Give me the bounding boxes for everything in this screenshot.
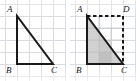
vertex-label-d: D [123,5,130,14]
vertex-label-a: A [77,5,83,14]
triangle-abc-outline [17,16,53,64]
geometry-diagram-canvas: A B C A B C [0,0,136,81]
vertex-label-a: A [7,5,13,14]
vertex-label-b: B [6,66,12,75]
vertex-label-c: C [121,66,127,75]
vertex-label-b: B [76,66,82,75]
panel-triangle-only: A B C [0,0,66,81]
panel-triangle-with-rectangle: A B C D [70,0,136,81]
triangle-interior-cell-highlight [99,52,111,64]
vertex-label-c: C [51,66,57,75]
